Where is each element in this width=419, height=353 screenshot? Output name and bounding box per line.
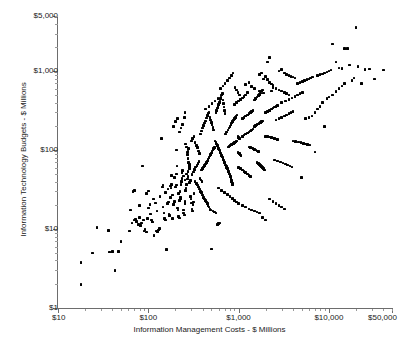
y-tick-minor (55, 95, 58, 96)
data-point (283, 208, 286, 211)
y-tick-minor (55, 154, 58, 155)
data-point (191, 210, 194, 213)
data-point (177, 209, 180, 212)
data-point (193, 192, 196, 195)
data-point (80, 283, 83, 286)
data-point (187, 170, 190, 173)
data-point (214, 100, 217, 103)
data-point (244, 206, 247, 209)
data-point (211, 102, 214, 105)
data-point (223, 109, 226, 112)
data-point (272, 200, 275, 203)
data-point (162, 206, 165, 209)
x-tick-minor (372, 309, 373, 311)
data-point (158, 227, 161, 230)
data-point (165, 248, 168, 251)
data-point (291, 97, 294, 100)
y-tick-minor (55, 16, 58, 17)
data-point (212, 129, 215, 132)
data-point (219, 87, 222, 90)
data-point (172, 125, 175, 128)
x-tick-minor (134, 309, 135, 311)
data-point (189, 166, 192, 169)
data-point (199, 133, 202, 136)
data-point (275, 87, 278, 90)
data-point (149, 203, 152, 206)
data-point (187, 175, 190, 178)
data-point (184, 202, 187, 205)
data-point (319, 105, 322, 108)
data-point (131, 222, 134, 225)
data-point (173, 176, 176, 179)
data-point (201, 180, 204, 183)
data-point (351, 79, 354, 82)
data-point (145, 231, 148, 234)
x-tick-minor (309, 309, 310, 311)
data-point (264, 219, 267, 222)
data-point (139, 224, 142, 227)
data-point (276, 138, 279, 141)
data-point (181, 177, 184, 180)
data-point (185, 146, 188, 149)
data-point (184, 179, 187, 182)
data-point (253, 87, 256, 90)
data-point (260, 72, 263, 75)
data-point (167, 188, 170, 191)
data-point (175, 173, 178, 176)
y-tick-minor (55, 205, 58, 206)
data-point (291, 166, 294, 169)
data-point (193, 135, 196, 138)
data-point (114, 269, 117, 272)
data-point (288, 94, 291, 97)
x-tick-minor (266, 309, 267, 311)
data-point (208, 111, 211, 114)
data-point (189, 179, 192, 182)
data-point (228, 77, 231, 80)
data-point (153, 234, 156, 237)
data-point (258, 90, 261, 93)
data-point (96, 226, 99, 229)
data-point (224, 112, 227, 115)
data-point (357, 65, 360, 68)
data-point (321, 101, 324, 104)
data-point (220, 96, 223, 99)
data-point (270, 90, 273, 93)
y-tick-minor (55, 83, 58, 84)
data-point (219, 100, 222, 103)
data-point (308, 116, 311, 119)
data-point (262, 92, 265, 95)
data-point (173, 200, 176, 203)
data-point (341, 85, 344, 88)
y-tick-minor (55, 126, 58, 127)
data-point (160, 137, 163, 140)
data-point (171, 194, 174, 197)
y-axis-title: Information Technology Budgets - $ Milli… (19, 60, 28, 260)
data-point (191, 137, 194, 140)
data-point (188, 163, 191, 166)
data-point (314, 151, 317, 154)
scatter-chart-figure: $10$100$1,000$10,000$50,000 $1$10$100$1,… (0, 0, 419, 353)
y-tick-minor (55, 247, 58, 248)
y-tick-minor (55, 103, 58, 104)
data-point (335, 61, 338, 64)
data-point (169, 196, 172, 199)
x-tick-label: $10 (52, 313, 65, 323)
y-tick-minor (55, 253, 58, 254)
data-point (292, 110, 295, 113)
data-point (180, 127, 183, 130)
data-point (129, 209, 132, 212)
data-point (275, 119, 278, 122)
data-point (335, 90, 338, 93)
y-tick-minor (55, 260, 58, 261)
data-point (184, 111, 187, 114)
y-tick-minor (55, 233, 58, 234)
x-axis-title: Information Management Costs - $ Million… (0, 325, 419, 334)
x-tick-minor (234, 309, 235, 311)
data-point (258, 212, 261, 215)
x-tick-label: $10,000 (314, 313, 343, 323)
data-point (241, 204, 244, 207)
y-tick-minor (55, 284, 58, 285)
y-tick-minor (55, 237, 58, 238)
data-point (314, 111, 317, 114)
y-tick-minor (55, 89, 58, 90)
